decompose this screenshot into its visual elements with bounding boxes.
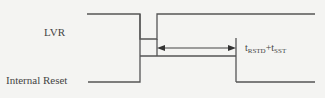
- t-sst: tSST: [271, 42, 286, 53]
- internal-reset-label: Internal Reset: [6, 74, 67, 86]
- sst-subscript: SST: [274, 47, 286, 55]
- t-rstd: tRSTD: [245, 42, 266, 53]
- timing-annotation: tRSTD+tSST: [245, 42, 286, 55]
- lvr-waveform: [87, 14, 315, 39]
- arrow-right-head-icon: [228, 45, 236, 51]
- internal-reset-waveform: [88, 14, 140, 82]
- arrow-left-head-icon: [157, 45, 165, 51]
- lvr-label: LVR: [44, 26, 65, 38]
- rstd-subscript: RSTD: [248, 47, 266, 55]
